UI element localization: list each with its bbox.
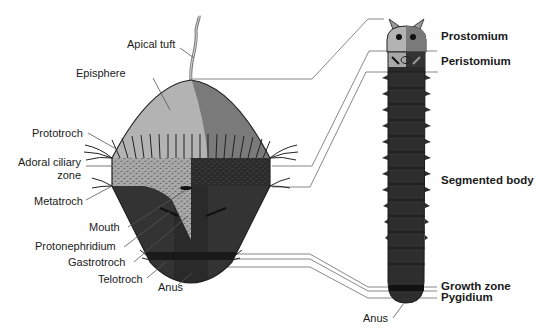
label-protonephridium: Protonephridium xyxy=(35,241,116,252)
segmented-annelid xyxy=(382,19,431,318)
label-peristomium: Peristomium xyxy=(441,56,511,68)
label-adult-anus: Anus xyxy=(363,313,388,324)
label-gastrotroch: Gastrotroch xyxy=(68,257,125,268)
label-telotroch: Telotroch xyxy=(98,274,143,285)
label-episphere: Episphere xyxy=(76,68,126,79)
label-adoral-ciliary-zone-line1: Adoral ciliary xyxy=(17,157,81,168)
label-pygidium: Pygidium xyxy=(441,292,493,304)
label-metatroch: Metatroch xyxy=(34,196,83,207)
label-segmented-body: Segmented body xyxy=(441,175,534,187)
diagram-canvas: Apical tuft Episphere Prototroch Adoral … xyxy=(0,0,547,329)
label-adoral-ciliary-zone-line2: zone xyxy=(17,170,81,181)
trochophore-larva xyxy=(84,16,301,286)
label-larva-anus: Anus xyxy=(158,282,183,293)
label-apical-tuft: Apical tuft xyxy=(127,39,175,50)
label-prototroch: Prototroch xyxy=(32,128,83,139)
label-prostomium: Prostomium xyxy=(441,31,508,43)
label-mouth: Mouth xyxy=(89,222,120,233)
